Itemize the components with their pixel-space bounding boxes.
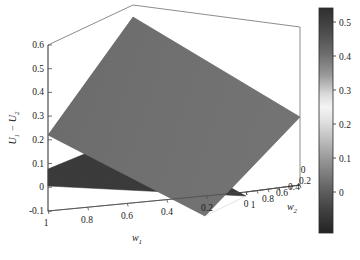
w1-tick-label-3: 0.4 — [161, 207, 173, 217]
colorbar-tick-label-0: 0.5 — [339, 18, 351, 28]
w2-title-sub: 2 — [294, 207, 298, 215]
z-axis[interactable]: 0.6 0.5 0.4 0.3 0.2 0.1 0 -0.1 — [29, 40, 52, 216]
figure-3d-surface-plot: 0.6 0.5 0.4 0.3 0.2 0.1 0 -0.1 U1 − U2 — [0, 0, 360, 260]
w2-tick-label-4: 0.2 — [299, 176, 311, 186]
colorbar-gradient — [319, 8, 333, 233]
colorbar-tick-label-4: 0.1 — [339, 154, 351, 164]
w1-tick-label-0: 1 — [44, 218, 49, 228]
z-tick-label-6: 0 — [39, 182, 44, 192]
colorbar-tick-label-3: 0.2 — [339, 120, 351, 130]
z-tick-label-0: 0.6 — [32, 40, 44, 50]
w1-tick-label-1: 0.8 — [81, 215, 93, 225]
z-axis-title: U1 − U2 — [7, 111, 21, 145]
w1-tick-label-5: 0 — [244, 199, 249, 209]
w2-tick-label-5: 0 — [301, 165, 306, 175]
w2-axis[interactable]: 1 0.8 0.6 0.4 0.2 0 w2 — [246, 165, 311, 215]
w1-tick-label-4: 0.2 — [201, 203, 213, 213]
w1-tick-label-2: 0.6 — [121, 211, 133, 221]
z-tick-label-2: 0.4 — [32, 87, 44, 97]
z-tick-label-5: 0.1 — [32, 159, 44, 169]
colorbar-tick-label-1: 0.4 — [339, 52, 351, 62]
w1-axis-title: w1 — [132, 232, 142, 246]
colorbar[interactable]: 0.5 0.4 0.3 0.2 0.1 0 — [319, 8, 351, 233]
w2-tick-label-2: 0.6 — [276, 188, 288, 198]
colorbar-tick-label-2: 0.3 — [339, 86, 351, 96]
w2-tick-label-1: 0.8 — [262, 194, 274, 204]
z-tick-label-1: 0.5 — [32, 64, 44, 74]
w1-title-sub: 1 — [139, 238, 143, 246]
surface-layer — [48, 17, 300, 216]
colorbar-ticks — [333, 22, 336, 192]
w2-axis-title: w2 — [287, 201, 298, 215]
surface-plot-canvas[interactable]: 0.6 0.5 0.4 0.3 0.2 0.1 0 -0.1 U1 − U2 — [0, 0, 360, 260]
z-title-minus: − — [7, 125, 18, 132]
z-tick-label-3: 0.3 — [32, 111, 44, 121]
svg-text:U1 − U2: U1 − U2 — [7, 111, 21, 145]
colorbar-tick-label-5: 0 — [339, 188, 344, 198]
w2-tick-label-0: 1 — [251, 200, 256, 210]
z-tick-label-7: -0.1 — [29, 206, 44, 216]
z-tick-label-4: 0.2 — [32, 135, 44, 145]
z-title-u2-sub: 2 — [13, 111, 21, 115]
